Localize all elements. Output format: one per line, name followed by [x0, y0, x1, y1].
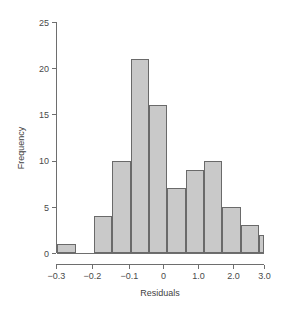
y-tick-label: 0: [44, 249, 49, 259]
x-tick-label: 2.0: [227, 271, 240, 281]
x-tick-label: −0.3: [48, 271, 66, 281]
histogram-bar: [132, 59, 149, 252]
x-tick-group: −0.3−0.2−0.101.02.03.0: [48, 265, 271, 281]
histogram-bar: [187, 170, 204, 252]
x-axis-title: Residuals: [140, 288, 180, 298]
histogram-bar: [150, 106, 167, 253]
y-axis: 0510152025: [39, 18, 57, 259]
x-tick-label: −0.1: [121, 271, 139, 281]
y-tick-label: 20: [39, 64, 49, 74]
x-axis: −0.3−0.2−0.101.02.03.0: [48, 265, 271, 281]
y-tick-label: 15: [39, 110, 49, 120]
histogram-bar: [168, 189, 186, 253]
histogram-bar: [95, 217, 112, 253]
x-tick-label: 0: [161, 271, 166, 281]
histogram-bar: [223, 207, 241, 252]
x-tick-label: 3.0: [258, 271, 271, 281]
histogram-bar: [242, 226, 259, 253]
histogram-bar: [205, 161, 222, 252]
y-tick-group: 0510152025: [39, 18, 56, 259]
y-tick-label: 5: [44, 203, 49, 213]
histogram-bar: [113, 161, 131, 252]
x-tick-label: −0.2: [84, 271, 102, 281]
y-tick-label: 25: [39, 18, 49, 28]
histogram-chart: 0510152025 −0.3−0.2−0.101.02.03.0 Residu…: [0, 0, 291, 309]
histogram-bar: [260, 235, 264, 252]
y-tick-label: 10: [39, 156, 49, 166]
y-axis-title: Frequency: [16, 126, 26, 169]
histogram-svg: 0510152025 −0.3−0.2−0.101.02.03.0 Residu…: [0, 0, 291, 309]
bars-group: [58, 59, 264, 252]
x-tick-label: 1.0: [192, 271, 205, 281]
histogram-bar: [58, 244, 76, 252]
